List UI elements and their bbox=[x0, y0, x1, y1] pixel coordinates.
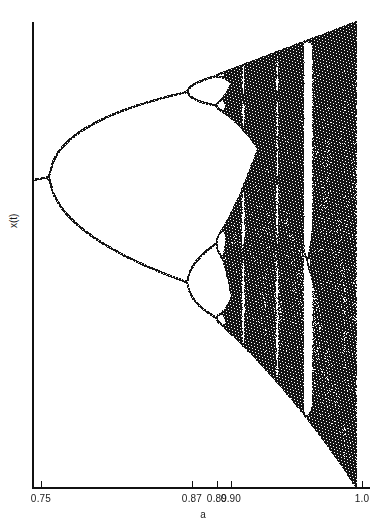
x-tick-label: 0.87 bbox=[182, 493, 202, 504]
x-axis-line bbox=[32, 487, 370, 489]
x-tick-label: 0.90 bbox=[221, 493, 241, 504]
x-tick-label: 1.0 bbox=[355, 493, 370, 504]
y-axis-title: x(t) bbox=[8, 214, 19, 228]
y-axis-line bbox=[32, 22, 34, 488]
x-axis-title: a bbox=[200, 509, 206, 520]
x-tick-mark bbox=[41, 481, 42, 487]
x-tick-mark bbox=[217, 481, 218, 487]
x-tick-mark bbox=[192, 481, 193, 487]
x-tick-mark bbox=[362, 481, 363, 487]
x-tick-label: 0.75 bbox=[31, 493, 51, 504]
x-tick-mark bbox=[231, 481, 232, 487]
bifurcation-figure: 0.750.870.890.901.0 a x(t) bbox=[0, 0, 387, 532]
bifurcation-plot-canvas bbox=[33, 20, 371, 488]
